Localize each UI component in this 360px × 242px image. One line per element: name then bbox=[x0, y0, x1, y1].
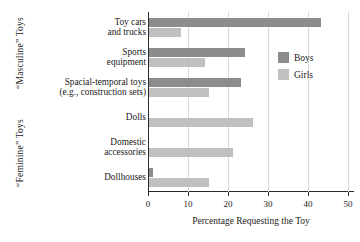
category-axis-labels: Toy carsand trucksSportsequipmentSpacial… bbox=[26, 12, 146, 192]
bar-girls-2 bbox=[149, 88, 209, 97]
category-label-0: Toy carsand trucks bbox=[24, 17, 146, 38]
category-label-line: equipment bbox=[107, 57, 146, 67]
bar-boys-5 bbox=[149, 168, 153, 177]
category-label-line: Toy cars bbox=[114, 17, 146, 27]
category-label-line: Dollhouses bbox=[104, 172, 146, 182]
category-label-line: accessories bbox=[104, 147, 146, 157]
category-label-5: Dollhouses bbox=[24, 172, 146, 183]
category-label-2: Spacial-temporal toys(e.g., construction… bbox=[24, 77, 146, 98]
plot-area: 01020304050 bbox=[148, 12, 348, 192]
category-label-line: Spacial-temporal toys bbox=[65, 77, 146, 87]
bar-girls-3 bbox=[149, 118, 253, 127]
bar-boys-0 bbox=[149, 18, 321, 27]
x-axis-tick bbox=[268, 192, 269, 196]
category-label-3: Dolls bbox=[24, 112, 146, 123]
x-axis-tick-label: 10 bbox=[176, 199, 200, 209]
legend-item-boys: Boys bbox=[278, 52, 314, 63]
legend-swatch-boys-icon bbox=[278, 52, 289, 63]
legend: Boys Girls bbox=[278, 52, 314, 86]
gridline bbox=[348, 12, 349, 192]
category-label-line: and trucks bbox=[108, 27, 146, 37]
category-label-line: Domestic bbox=[110, 137, 146, 147]
x-axis-title: Percentage Requesting the Toy bbox=[148, 216, 354, 226]
x-axis-tick bbox=[228, 192, 229, 196]
x-axis-line bbox=[148, 191, 354, 192]
x-axis-tick-label: 50 bbox=[336, 199, 360, 209]
legend-item-girls: Girls bbox=[278, 69, 314, 80]
category-label-line: Dolls bbox=[126, 112, 146, 122]
gridline bbox=[228, 12, 229, 192]
category-label-4: Domesticaccessories bbox=[24, 137, 146, 158]
x-axis-tick-label: 0 bbox=[136, 199, 160, 209]
y-axis-line bbox=[148, 12, 149, 192]
legend-swatch-girls-icon bbox=[278, 69, 289, 80]
x-axis-tick bbox=[148, 192, 149, 196]
bar-chart: “Masculine” Toys “Feminine” Toys Toy car… bbox=[0, 0, 360, 242]
bar-boys-1 bbox=[149, 48, 245, 57]
group-axis: “Masculine” Toys “Feminine” Toys bbox=[0, 0, 26, 242]
legend-label-girls: Girls bbox=[294, 70, 313, 80]
gridline bbox=[188, 12, 189, 192]
category-label-line: (e.g., construction sets) bbox=[60, 87, 147, 97]
gridline bbox=[308, 12, 309, 192]
bar-girls-4 bbox=[149, 148, 233, 157]
legend-label-boys: Boys bbox=[294, 53, 314, 63]
x-axis-tick-label: 30 bbox=[256, 199, 280, 209]
x-axis-tick bbox=[308, 192, 309, 196]
bar-girls-1 bbox=[149, 58, 205, 67]
x-axis-tick-label: 20 bbox=[216, 199, 240, 209]
gridline bbox=[268, 12, 269, 192]
x-axis-tick-label: 40 bbox=[296, 199, 320, 209]
category-label-line: Sports bbox=[122, 47, 146, 57]
category-label-1: Sportsequipment bbox=[24, 47, 146, 68]
bar-girls-5 bbox=[149, 178, 209, 187]
bar-boys-2 bbox=[149, 78, 241, 87]
x-axis-tick bbox=[188, 192, 189, 196]
bar-girls-0 bbox=[149, 28, 181, 37]
x-axis-tick bbox=[348, 192, 349, 196]
